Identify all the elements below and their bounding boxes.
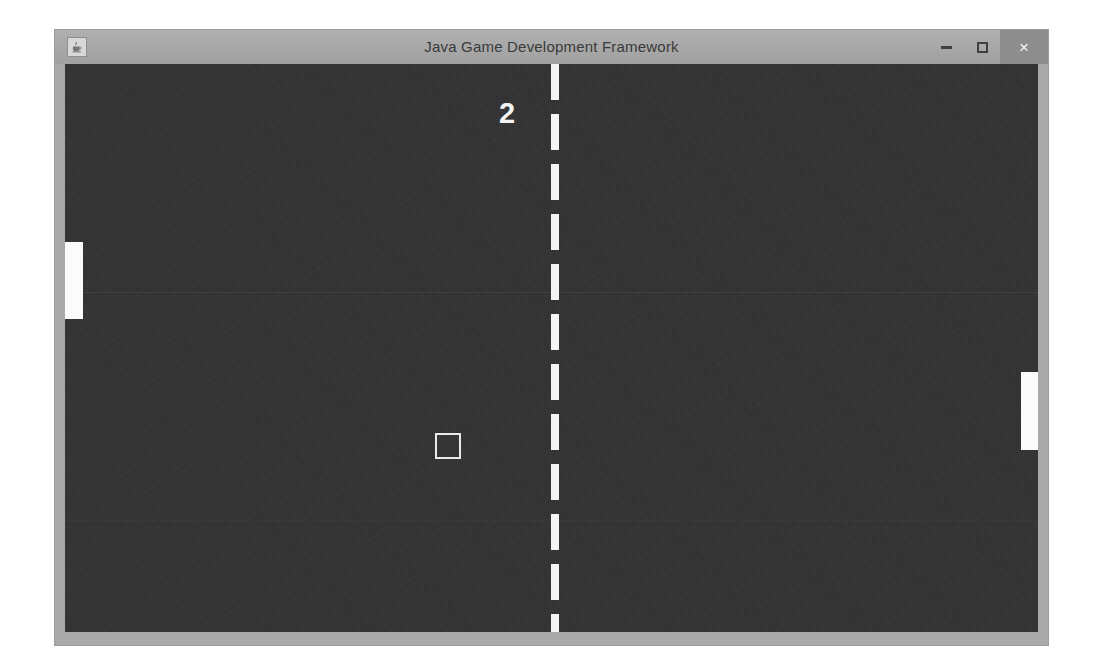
ball: [435, 433, 461, 459]
paddle-right[interactable]: [1021, 372, 1038, 450]
maximize-button[interactable]: [964, 30, 1000, 64]
maximize-icon: [977, 42, 988, 53]
window-controls: ×: [928, 30, 1048, 64]
paddle-left[interactable]: [65, 242, 83, 319]
screen: Java Game Development Framework × 2: [0, 0, 1096, 671]
title-bar[interactable]: Java Game Development Framework ×: [55, 30, 1048, 64]
center-dashed-line: [551, 64, 559, 632]
minimize-button[interactable]: [928, 30, 964, 64]
score-display: 2: [477, 97, 537, 130]
close-button[interactable]: ×: [1000, 30, 1048, 64]
close-icon: ×: [1019, 39, 1029, 56]
application-window: Java Game Development Framework × 2: [55, 30, 1048, 645]
minimize-icon: [941, 46, 952, 49]
game-canvas[interactable]: 2: [65, 64, 1038, 632]
window-title: Java Game Development Framework: [55, 30, 1048, 64]
